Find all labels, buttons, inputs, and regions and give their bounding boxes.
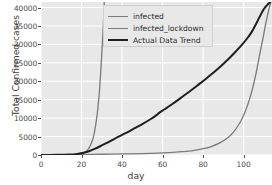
legend-item[interactable]: infected xyxy=(108,10,164,22)
x-tick-mark xyxy=(163,155,164,158)
y-axis-title-wrap: Total Confirmed cases xyxy=(2,20,14,140)
y-tick-mark xyxy=(38,137,41,138)
x-tick-mark xyxy=(203,155,204,158)
legend-line-swatch xyxy=(108,39,128,41)
legend-item[interactable]: infected_lockdown xyxy=(108,22,204,34)
legend-label: Actual Data Trend xyxy=(133,36,201,45)
legend-label: infected xyxy=(133,12,164,21)
y-tick-mark xyxy=(38,100,41,101)
legend-item[interactable]: Actual Data Trend xyxy=(108,34,201,46)
x-tick-mark xyxy=(82,155,83,158)
series-line xyxy=(41,2,104,155)
x-tick-label: 20 xyxy=(77,160,86,169)
y-tick-label: 0 xyxy=(32,151,37,160)
y-tick-mark xyxy=(38,26,41,27)
x-tick-label: 80 xyxy=(198,160,207,169)
legend-line-swatch xyxy=(108,28,128,29)
x-axis-title: day xyxy=(0,170,272,181)
y-tick-label: 5000 xyxy=(19,132,37,141)
x-tick-label: 100 xyxy=(237,160,251,169)
y-tick-mark xyxy=(38,118,41,119)
x-tick-mark xyxy=(244,155,245,158)
y-axis-title: Total Confirmed cases xyxy=(10,0,21,141)
y-tick-mark xyxy=(38,63,41,64)
x-tick-label: 60 xyxy=(158,160,167,169)
y-tick-mark xyxy=(38,8,41,9)
figure: 0500010000150002000025000300003500040000… xyxy=(0,0,272,185)
x-tick-label: 0 xyxy=(39,160,44,169)
legend-label: infected_lockdown xyxy=(133,24,204,33)
legend-line-swatch xyxy=(108,16,128,17)
legend: infectedinfected_lockdownActual Data Tre… xyxy=(103,5,213,47)
x-tick-label: 40 xyxy=(117,160,126,169)
y-tick-mark xyxy=(38,44,41,45)
y-tick-mark xyxy=(38,81,41,82)
x-tick-mark xyxy=(122,155,123,158)
x-tick-mark xyxy=(41,155,42,158)
